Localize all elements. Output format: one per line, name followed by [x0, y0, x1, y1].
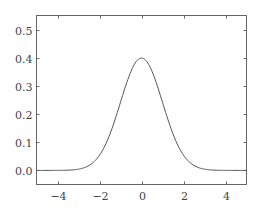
- y-tick-label: 0.3: [15, 81, 33, 94]
- x-tick-label: 2: [181, 190, 188, 203]
- y-tick-label: 0.4: [15, 53, 33, 66]
- y-tick-label: 0.1: [15, 137, 33, 150]
- y-tick-label: 0.0: [15, 165, 33, 178]
- y-tick-label: 0.5: [15, 25, 33, 38]
- y-axis: 0.00.10.20.30.40.5: [15, 25, 247, 178]
- axes-frame: [37, 16, 247, 185]
- x-tick-label: 4: [223, 190, 230, 203]
- chart: −4−2024 0.00.10.20.30.40.5: [0, 0, 257, 208]
- x-tick-label: 0: [139, 190, 146, 203]
- x-axis: −4−2024: [50, 16, 230, 203]
- x-tick-label: −4: [50, 190, 66, 203]
- data-line: [37, 58, 247, 170]
- y-tick-label: 0.2: [15, 109, 33, 122]
- x-tick-label: −2: [92, 190, 108, 203]
